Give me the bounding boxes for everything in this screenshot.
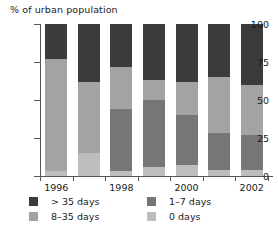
x-axis-tick-label: 2000 xyxy=(174,182,198,193)
y-axis-tick xyxy=(34,24,40,25)
x-axis-tick-label: 2002 xyxy=(240,182,264,193)
y-axis-tick-label: 25 xyxy=(257,133,269,144)
bar-segment xyxy=(78,24,100,82)
legend-row: > 35 days 1–7 days xyxy=(28,194,268,209)
x-axis-line xyxy=(40,176,273,177)
legend-swatch-icon xyxy=(146,211,157,222)
bar-segment xyxy=(78,153,100,176)
bar-segment xyxy=(176,82,198,115)
bar-column xyxy=(110,24,132,176)
bar-segment xyxy=(45,171,67,176)
bar-segment xyxy=(208,170,230,176)
bar-segment xyxy=(45,24,67,59)
x-axis-tick xyxy=(73,176,74,181)
legend-label: 8–35 days xyxy=(51,211,99,222)
y-axis-tick xyxy=(34,100,40,101)
bar-segment xyxy=(110,67,132,110)
plot-area xyxy=(40,24,268,176)
bar-segment xyxy=(176,115,198,165)
bar-segment xyxy=(143,80,165,100)
legend-swatch-icon xyxy=(28,196,39,207)
bar-column xyxy=(45,24,67,176)
x-axis-tick-label: 1998 xyxy=(109,182,133,193)
bar-segment xyxy=(176,24,198,82)
bar-segment xyxy=(208,24,230,77)
y-axis-tick-label: 100 xyxy=(251,19,269,30)
bar-segment xyxy=(208,77,230,133)
x-axis-tick xyxy=(170,176,171,181)
bar-column xyxy=(208,24,230,176)
bar-segment xyxy=(176,165,198,176)
chart-legend: > 35 days 1–7 days 8–35 days 0 days xyxy=(28,194,268,224)
legend-item-1-7-days: 1–7 days xyxy=(146,196,211,207)
bar-column xyxy=(143,24,165,176)
legend-label: 0 days xyxy=(169,211,201,222)
legend-swatch-icon xyxy=(28,211,39,222)
stacked-bar-chart: % of urban population 0255075100 1996199… xyxy=(0,0,278,232)
legend-item-0-days: 0 days xyxy=(146,211,201,222)
bar-segment xyxy=(143,167,165,176)
bar-segment xyxy=(241,85,263,135)
x-axis-tick xyxy=(138,176,139,181)
bar-segment xyxy=(78,82,100,153)
y-axis-tick-label: 75 xyxy=(257,57,269,68)
bar-column xyxy=(176,24,198,176)
x-axis-tick xyxy=(105,176,106,181)
bar-column xyxy=(78,24,100,176)
legend-label: > 35 days xyxy=(51,196,100,207)
legend-item-gt-35-days: > 35 days xyxy=(28,196,146,207)
legend-row: 8–35 days 0 days xyxy=(28,209,268,224)
legend-swatch-icon xyxy=(146,196,157,207)
x-axis-tick-label: 1996 xyxy=(44,182,68,193)
bar-segment xyxy=(143,100,165,167)
x-axis-tick xyxy=(40,176,41,181)
bar-segment xyxy=(45,59,67,171)
legend-label: 1–7 days xyxy=(169,196,211,207)
bar-segment xyxy=(110,24,132,67)
bar-segment xyxy=(241,170,263,176)
y-axis-tick xyxy=(34,138,40,139)
bar-segment xyxy=(241,24,263,85)
y-axis-tick xyxy=(34,62,40,63)
x-axis-tick xyxy=(235,176,236,181)
chart-axis-title: % of urban population xyxy=(10,4,118,15)
x-axis-tick xyxy=(203,176,204,181)
bar-segment xyxy=(110,171,132,176)
bar-segment xyxy=(143,24,165,80)
x-axis-tick xyxy=(268,176,269,181)
bar-segment xyxy=(208,133,230,169)
bar-segment xyxy=(110,109,132,171)
y-axis-tick-label: 50 xyxy=(257,95,269,106)
legend-item-8-35-days: 8–35 days xyxy=(28,211,146,222)
